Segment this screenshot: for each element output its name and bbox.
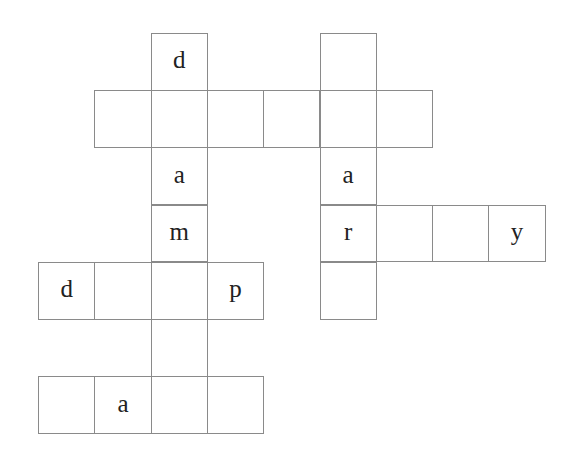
crossword-cell-r4-c5[interactable] [320,262,377,320]
crossword-cell-r2-c2[interactable]: a [151,147,208,205]
crossword-cell-r3-c5[interactable]: r [320,205,377,263]
crossword-cell-r1-c4[interactable] [263,90,320,148]
crossword-cell-r4-c1[interactable] [94,262,151,320]
crossword-cell-r0-c2[interactable]: d [151,33,208,91]
crossword-cell-r3-c8[interactable]: y [488,205,545,263]
crossword-cell-r4-c2[interactable] [151,262,208,320]
crossword-cell-r1-c3[interactable] [207,90,264,148]
crossword-cell-r6-c0[interactable] [38,376,95,434]
crossword-cell-r3-c2[interactable]: m [151,205,208,263]
crossword-cell-r6-c3[interactable] [207,376,264,434]
crossword-cell-r3-c7[interactable] [432,205,489,263]
crossword-cell-r4-c3[interactable]: p [207,262,264,320]
crossword-cell-r4-c0[interactable]: d [38,262,95,320]
crossword-cell-r1-c5[interactable] [320,90,377,148]
crossword-cell-r6-c2[interactable] [151,376,208,434]
crossword-cell-r0-c5[interactable] [320,33,377,91]
crossword-cell-r2-c5[interactable]: a [320,147,377,205]
crossword-cell-r5-c2[interactable] [151,319,208,377]
crossword-cell-r1-c6[interactable] [376,90,433,148]
crossword-cell-r1-c2[interactable] [151,90,208,148]
crossword-grid: daamrydpa [0,0,577,453]
crossword-cell-r1-c1[interactable] [94,90,151,148]
crossword-cell-r6-c1[interactable]: a [94,376,151,434]
crossword-cell-r3-c6[interactable] [376,205,433,263]
